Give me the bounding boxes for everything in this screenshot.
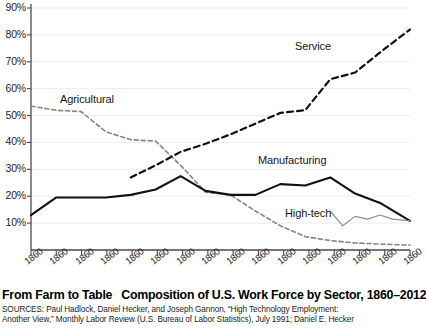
caption-block: From Farm to TableComposition of U.S. Wo… <box>0 288 414 324</box>
y-axis-tick-label: 60% <box>0 82 26 94</box>
series-line-agricultural <box>31 106 410 245</box>
y-axis-tick-label: 40% <box>0 135 26 147</box>
sources-line-2: Another View,” Monthly Labor Review (U.S… <box>2 315 414 325</box>
caption-headline: From Farm to Table <box>2 288 112 302</box>
chart-svg <box>0 0 414 285</box>
y-axis-tick-label: 90% <box>0 1 26 13</box>
series-label-agricultural: Agricultural <box>60 93 114 105</box>
axis-lines <box>31 4 410 250</box>
y-axis-tick-label: 20% <box>0 189 26 201</box>
y-axis-tick-label: 50% <box>0 109 26 121</box>
y-axis-tick-label: 80% <box>0 28 26 40</box>
gridlines <box>31 8 410 223</box>
sources-line-1: SOURCES: Paul Hadlock, Daniel Hecker, an… <box>2 305 414 315</box>
y-axis-tick-label: 30% <box>0 162 26 174</box>
sources-note: SOURCES: Paul Hadlock, Daniel Hecker, an… <box>0 305 414 324</box>
series-label-high-tech: High-tech <box>285 207 331 219</box>
y-axis-tick-label: 10% <box>0 216 26 228</box>
series-label-manufacturing: Manufacturing <box>258 154 326 166</box>
caption-subhead: Composition of U.S. Work Force by Sector… <box>121 288 426 302</box>
series-line-manufacturing <box>31 176 410 221</box>
plot-area: 10%20%30%40%50%60%70%80%90% 186018601860… <box>0 0 414 285</box>
series-label-service: Service <box>295 40 331 52</box>
caption-title-line: From Farm to TableComposition of U.S. Wo… <box>0 288 414 302</box>
y-axis-tick-label: 70% <box>0 55 26 67</box>
